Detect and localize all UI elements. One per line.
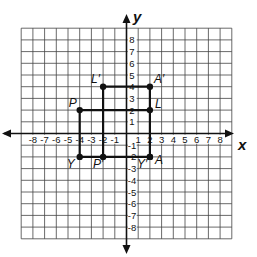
point-label: Y′ [137,157,148,171]
x-axis-left-arrow-icon [2,130,11,138]
y-tick-label: 5 [129,70,134,81]
y-tick-label: -4 [128,175,136,186]
x-tick-label: -5 [64,134,72,145]
point-label: L′ [91,72,101,86]
y-tick-label: 8 [129,34,134,45]
x-tick-label: 3 [159,134,164,145]
y-tick-label: 6 [129,58,134,69]
y-tick-label: -5 [128,187,136,198]
x-tick-label: -6 [52,134,60,145]
point-marker [77,107,83,113]
y-axis-down-arrow-icon [123,245,131,254]
point-label: Y [67,157,76,171]
x-tick-label: -8 [29,134,37,145]
point-marker [77,154,83,160]
x-tick-label: 8 [217,134,222,145]
x-tick-label: -3 [87,134,95,145]
point-marker [147,107,153,113]
y-tick-label: 7 [129,46,134,57]
point-marker [147,154,153,160]
y-tick-label: -8 [128,222,136,233]
x-axis-label: x [237,136,247,153]
x-tick-label: 4 [171,134,176,145]
x-axis-right-arrow-icon [225,130,234,138]
point-label: A [154,153,163,167]
point-label: P′ [93,157,104,171]
x-tick-label: -7 [40,134,48,145]
point-marker [100,84,106,90]
x-tick-label: 1 [136,134,141,145]
x-tick-label: 5 [182,134,187,145]
coordinate-plane: -8-7-6-5-4-3-2-11234567887654321-1-2-3-4… [0,0,257,257]
y-tick-label: -6 [128,198,136,209]
point-label: P [69,96,77,110]
y-tick-label: -1 [128,140,136,151]
y-axis-up-arrow-icon [123,14,131,23]
point-label: A′ [153,72,165,86]
y-tick-label: 1 [129,116,134,127]
y-axis-label: y [132,8,142,25]
y-tick-label: 3 [129,93,134,104]
x-tick-label: -1 [111,134,119,145]
point-label: L [155,97,162,111]
grid-svg: -8-7-6-5-4-3-2-11234567887654321-1-2-3-4… [0,0,257,257]
y-tick-label: -3 [128,163,136,174]
x-tick-label: 6 [194,134,199,145]
point-marker [147,84,153,90]
y-tick-label: -7 [128,210,136,221]
x-tick-label: 7 [206,134,211,145]
